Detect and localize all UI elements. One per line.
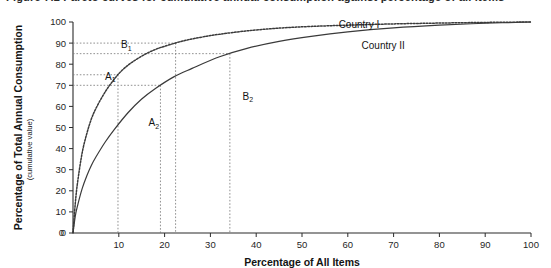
x-tick-label: 60 [343, 239, 354, 250]
y-tick-label: 100 [50, 16, 66, 27]
x-tick-label: 90 [480, 239, 491, 250]
x-tick-label: 10 [114, 239, 125, 250]
x-tick-label: 20 [159, 239, 170, 250]
region-label-a2: A2 [149, 117, 160, 129]
pareto-curve-figure: Figure 7.2 Pareto curves for cumulative … [0, 0, 551, 268]
y-axis-subtitle: (cumulative value) [25, 118, 34, 180]
x-tick-label: 80 [434, 239, 445, 250]
x-tick-label: 40 [251, 239, 262, 250]
y-tick-label: 60 [55, 101, 66, 112]
guide-lines [73, 43, 230, 233]
y-tick-label: 80 [55, 59, 66, 70]
region-label-b2: B2 [242, 91, 253, 103]
y-axis-title: Percentage of Total Annual Consumption [12, 25, 24, 230]
x-axis-title: Percentage of All Items [244, 256, 360, 268]
y-axis-tick-labels: 0102030405060708090100 [50, 16, 66, 238]
x-tick-label: 0 [59, 227, 64, 238]
y-axis-ticks [69, 22, 73, 233]
y-tick-label: 70 [55, 80, 66, 91]
series-label-country-ii: Country II [362, 40, 405, 51]
x-tick-label: 70 [388, 239, 399, 250]
x-axis-ticks [119, 233, 531, 237]
series-label-country-i: Country I [339, 19, 380, 30]
y-tick-label: 30 [55, 164, 66, 175]
x-tick-label: 100 [523, 239, 539, 250]
x-tick-label: 50 [297, 239, 308, 250]
x-tick-label: 30 [205, 239, 216, 250]
x-axis-tick-labels: 0102030405060708090100 [59, 227, 539, 250]
pareto-chart: 0102030405060708090100 01020304050607080… [0, 0, 551, 268]
y-tick-label: 50 [55, 122, 66, 133]
chart-axes: 0102030405060708090100 01020304050607080… [50, 16, 539, 250]
y-tick-label: 90 [55, 38, 66, 49]
y-tick-label: 40 [55, 143, 66, 154]
region-label-b1: B1 [121, 39, 132, 51]
y-tick-label: 20 [55, 185, 66, 196]
y-tick-label: 10 [55, 206, 66, 217]
region-label-a1: A1 [105, 71, 116, 83]
